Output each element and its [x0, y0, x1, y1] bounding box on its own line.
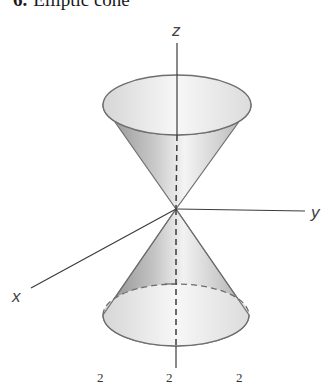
equation-superscript: 2: [236, 370, 243, 386]
y-axis: [176, 209, 305, 211]
y-axis-label: y: [310, 203, 321, 222]
z-axis-label: z: [171, 21, 181, 40]
equation-superscript: 2: [166, 370, 173, 386]
equation-superscript: 2: [97, 370, 104, 386]
x-axis-label: x: [11, 287, 21, 306]
